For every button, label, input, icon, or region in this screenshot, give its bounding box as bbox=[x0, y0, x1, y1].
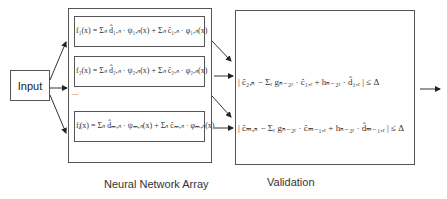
arrow-f2-validation-2 bbox=[212, 96, 231, 117]
arrow-f1-validation bbox=[212, 41, 231, 61]
nn-array-caption: Neural Network Array bbox=[104, 178, 209, 190]
validation-condition-2: | ĉₘ,ₙ − Σᵣ gₙ₋₂ᵣ · ĉₘ₋₁,ᵣ + hₙ₋₂ᵣ · d̂ₘ… bbox=[238, 123, 404, 133]
nn-ellipsis: ... bbox=[72, 88, 78, 97]
nn-formula-2: f₂(x) = Σₙ d̂₂,ₙ · ψ₂,ₙ(x) + Σₙ ĉ₂,ₙ · φ… bbox=[76, 66, 207, 75]
input-label: Input bbox=[18, 80, 42, 92]
diagram: Input f₁(x) = Σₙ d̂₁,ₙ · ψ₁,ₙ(x) + Σₙ ĉ₁… bbox=[0, 0, 447, 199]
validation-condition-1: | ĉ₂,ₙ − Σᵣ gₙ₋₂ᵣ · ĉ₁,ᵣ + hₙ₋₂ᵣ · d̂₁,ᵣ… bbox=[238, 77, 379, 87]
nn-formula-1: f₁(x) = Σₙ d̂₁,ₙ · ψ₁,ₙ(x) + Σₙ ĉ₁,ₙ · φ… bbox=[76, 26, 207, 35]
validation-caption: Validation bbox=[267, 176, 315, 188]
nn-formula-j: fⱼ(x) = Σₙ d̂ₘ,ₙ · ψₘ,ₙ(x) + Σₙ ĉₘ,ₙ · φ… bbox=[76, 121, 215, 130]
arrow-input-bottom bbox=[50, 95, 66, 133]
validation-box bbox=[235, 10, 415, 165]
input-box: Input bbox=[10, 70, 50, 101]
arrow-input-top bbox=[50, 42, 66, 80]
